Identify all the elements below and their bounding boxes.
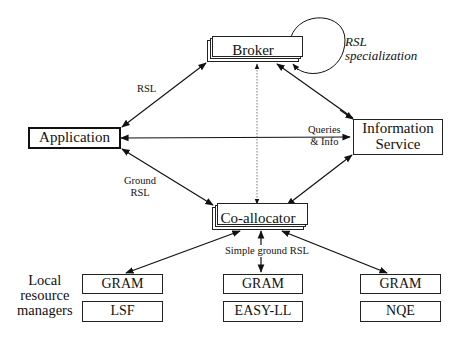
rsl-specialization-label: RSL specialization [345, 35, 417, 64]
information-service-node: Information Service [353, 119, 443, 155]
ground-rsl-label: Ground RSL [124, 175, 156, 198]
gram-label-1: GRAM [101, 277, 143, 292]
local-rm-line-3: managers [17, 303, 73, 318]
nqe-node: NQE [360, 301, 441, 322]
edge-coallocator-gram1 [126, 231, 240, 273]
gram-label-3: GRAM [379, 277, 421, 292]
gram-node-1: GRAM [82, 274, 163, 294]
edge-coallocator-infoservice [287, 155, 352, 205]
gram-node-3: GRAM [360, 274, 441, 294]
easyll-node: EASY-LL [223, 301, 303, 322]
ground-rsl-line-1: Ground [124, 175, 156, 187]
queries-info-label: Queries & Info [308, 124, 341, 147]
information-service-label-1: Information [362, 121, 434, 137]
broker-node: Broker [207, 40, 299, 62]
simple-ground-rsl-label: Simple ground RSL [225, 245, 309, 257]
rsl-loop-arrowhead [293, 64, 298, 70]
easyll-label: EASY-LL [235, 304, 292, 319]
application-node: Application [28, 127, 121, 149]
local-rm-line-2: resource [17, 288, 73, 303]
ground-rsl-line-2: RSL [124, 187, 156, 199]
rsl-specialization-line-1: RSL [345, 35, 417, 49]
rsl-specialization-line-2: specialization [345, 49, 417, 63]
edge-application-broker [122, 63, 206, 127]
edge-broker-infoservice-head [340, 110, 353, 119]
queries-line-1: Queries [308, 124, 341, 136]
lsf-node: LSF [82, 301, 163, 322]
gram-label-2: GRAM [242, 277, 284, 292]
edge-broker-infoservice [277, 64, 353, 118]
broker-label: Broker [232, 43, 274, 59]
coallocator-label: Co-allocator [221, 211, 296, 227]
local-resource-managers-label: Local resource managers [17, 273, 73, 319]
local-rm-line-1: Local [17, 273, 73, 288]
lsf-label: LSF [110, 304, 134, 319]
gram-node-2: GRAM [223, 274, 303, 294]
rsl-label: RSL [137, 83, 156, 95]
nqe-label: NQE [386, 304, 415, 319]
queries-line-2: & Info [308, 136, 341, 148]
information-service-label-2: Service [376, 137, 421, 153]
application-label: Application [39, 130, 110, 146]
coallocator-node: Co-allocator [212, 207, 304, 230]
